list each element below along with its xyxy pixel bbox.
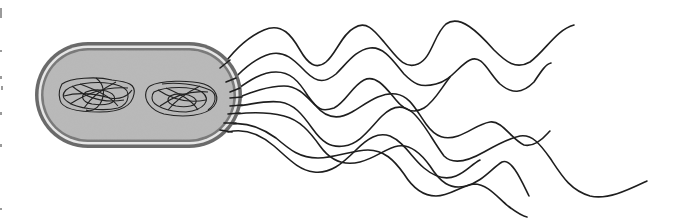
bacterium-diagram [0,0,683,224]
flagellum-3 [236,72,450,111]
flagella-bundle [224,21,647,217]
flagellum-1 [224,21,574,65]
flagellum-6 [236,113,529,196]
flagellum-2 [233,48,551,91]
flagellum-7 [232,124,527,217]
flagellum-5 [238,101,647,196]
left-edge-marks [0,8,3,210]
